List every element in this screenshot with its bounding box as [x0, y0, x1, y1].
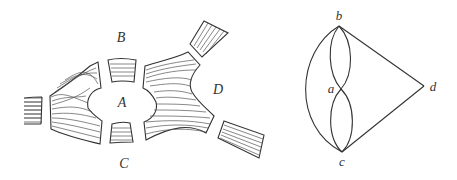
edge-c-d: [342, 86, 424, 152]
bridge-graph: [306, 26, 424, 152]
edge-a-c-1: [331, 89, 342, 152]
land-label-c: C: [119, 157, 128, 171]
land-label-a: A: [118, 96, 127, 110]
bridge-lower-right-stub: [218, 121, 264, 158]
river-sketch: [24, 21, 264, 158]
node-label-b: b: [336, 9, 343, 22]
bridge-upper-right-stub: [190, 21, 228, 57]
edge-a-b-2: [339, 26, 351, 89]
bridge-bottom-c: [110, 122, 133, 143]
right-land-mass: [143, 52, 214, 140]
bridge-top-b: [108, 59, 136, 83]
land-label-b: B: [117, 31, 126, 45]
land-label-d: D: [213, 83, 223, 97]
edge-b-c: [306, 26, 342, 152]
node-label-c: c: [339, 155, 345, 168]
node-label-d: d: [430, 80, 437, 93]
node-label-a: a: [328, 82, 335, 95]
left-land-mass: [50, 62, 102, 144]
edge-a-c-2: [341, 89, 352, 152]
edge-b-d: [339, 26, 424, 86]
bridge-left-stub: [24, 97, 42, 124]
konigsberg-figure: [0, 0, 457, 180]
